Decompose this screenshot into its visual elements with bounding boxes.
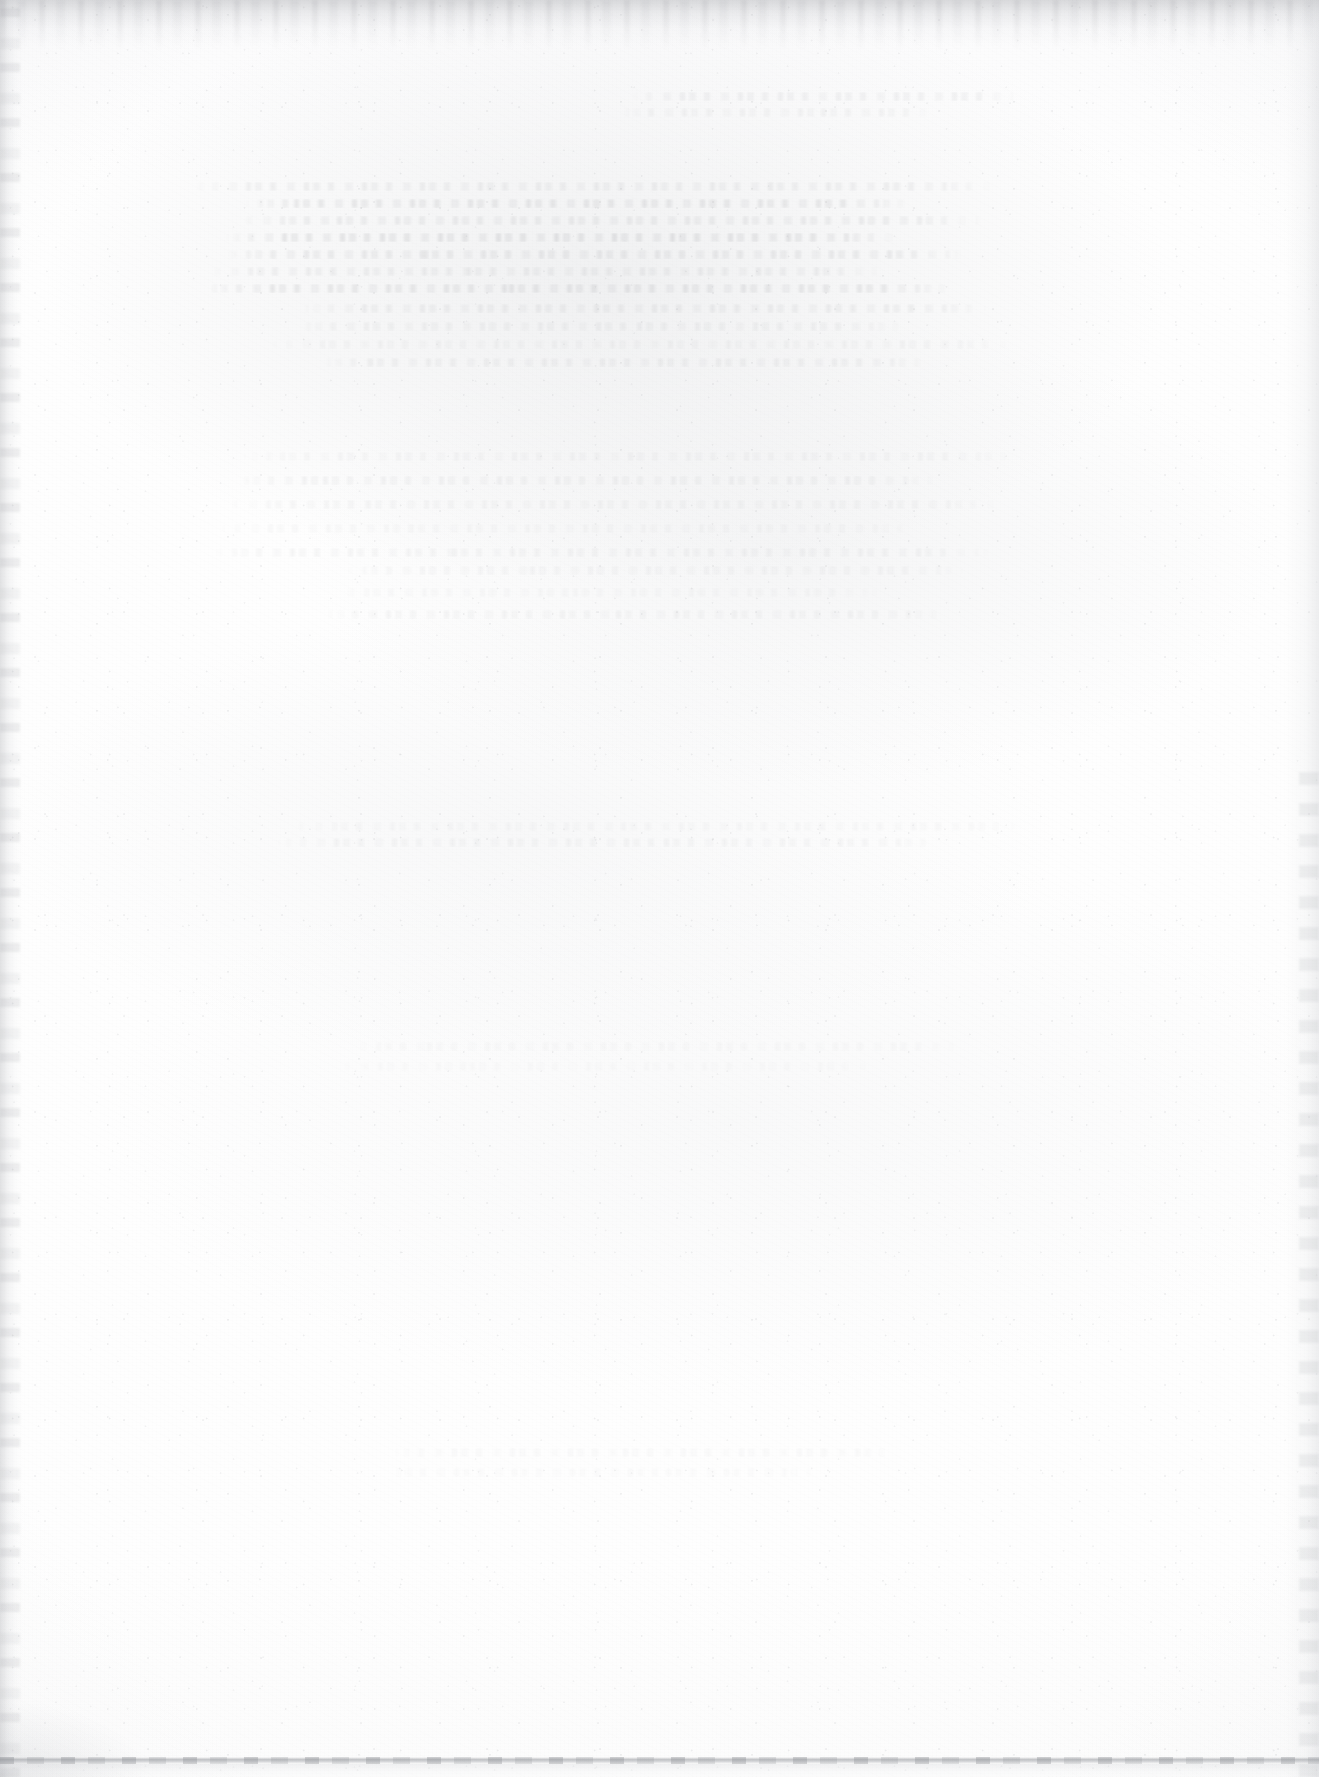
- ghost-text-block: [330, 1042, 970, 1082]
- ghost-text-line: [224, 233, 902, 242]
- ghost-text-line: [262, 340, 1022, 349]
- ghost-text-block: [262, 304, 1022, 376]
- dust-speckle-texture: [0, 0, 1319, 1777]
- ghost-text-line: [200, 548, 1000, 557]
- ghost-text-line: [272, 838, 950, 847]
- scan-edge-corner-bottom-left: [0, 1700, 150, 1777]
- ghost-text-line: [281, 822, 1034, 831]
- ghost-text-line: [197, 284, 958, 293]
- scan-edge-line-bottom: [0, 1757, 1319, 1764]
- scan-edge-mottle-top: [0, 0, 1319, 52]
- page-content-text: [0, 0, 1, 1]
- ghost-text-line: [320, 610, 956, 619]
- ghost-text-line: [236, 452, 1028, 461]
- ghost-text-block: [360, 1448, 920, 1488]
- paper-grain-texture: [0, 0, 1319, 1777]
- scan-edge-fade-bottom: [0, 1764, 1319, 1777]
- scan-edge-streak-left: [0, 0, 20, 1777]
- ghost-text-line: [218, 500, 1014, 509]
- ghost-text-line: [338, 566, 970, 575]
- ghost-text-block: [188, 182, 1000, 301]
- ghost-text-line: [630, 92, 1018, 101]
- ghost-text-line: [188, 182, 1000, 191]
- scanned-page: [0, 0, 1319, 1777]
- ghost-text-block: [284, 566, 984, 632]
- ghost-text-line: [206, 267, 888, 276]
- ghost-text-line: [329, 588, 886, 597]
- corner-vignette: [0, 0, 1319, 1777]
- ghost-text-line: [378, 1468, 822, 1477]
- ghost-text-line: [227, 476, 944, 485]
- ghost-text-block: [612, 92, 1032, 124]
- ghost-text-line: [289, 322, 910, 331]
- ghost-text-line: [242, 199, 916, 208]
- ghost-text-line: [215, 250, 972, 259]
- scan-edge-streak-right: [1299, 760, 1319, 1777]
- scan-edge-shadow-top: [0, 0, 1319, 46]
- scan-edge-shadow-left: [0, 0, 24, 1777]
- scan-edge-shadow-right: [1285, 0, 1319, 1777]
- ghost-text-line: [209, 524, 930, 533]
- ghost-text-line: [233, 216, 986, 225]
- ghost-text-line: [339, 1042, 970, 1051]
- ghost-text-line: [387, 1448, 906, 1457]
- ghost-text-line: [330, 1062, 886, 1071]
- ghost-text-block: [200, 452, 1028, 572]
- ghost-text-line: [316, 358, 938, 367]
- ghost-text-line: [621, 108, 934, 117]
- ghost-text-line: [298, 304, 994, 313]
- ghost-text-block: [272, 822, 1062, 854]
